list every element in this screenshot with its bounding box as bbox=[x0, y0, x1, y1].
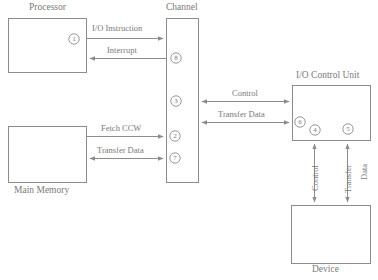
connector-label-fetch-ccw: Fetch CCW bbox=[101, 124, 141, 133]
box-processor bbox=[9, 19, 87, 73]
step-marker-3: 3 bbox=[171, 96, 182, 107]
io-channel-diagram bbox=[0, 0, 378, 280]
box-main-memory bbox=[9, 127, 87, 183]
connector-label-device-control: Control bbox=[311, 165, 320, 191]
box-label-io-control-unit: I/O Control Unit bbox=[296, 71, 359, 81]
connector-label-interrupt: Interrupt bbox=[107, 46, 137, 55]
step-marker-2: 2 bbox=[170, 131, 181, 142]
connector-label-memory-transfer-data: Transfer Data bbox=[97, 146, 144, 155]
connector-label-channel-transfer-data: Transfer Data bbox=[218, 110, 265, 119]
step-marker-1: 1 bbox=[69, 34, 80, 45]
step-marker-6: 6 bbox=[295, 117, 306, 128]
box-label-channel: Channel bbox=[166, 3, 198, 13]
connector-label-control: Control bbox=[232, 89, 258, 98]
step-marker-4: 4 bbox=[310, 125, 321, 136]
connector-label-device-data: Data bbox=[360, 164, 369, 180]
box-label-processor: Processor bbox=[29, 3, 66, 13]
box-io-control-unit bbox=[293, 86, 371, 141]
step-marker-7: 7 bbox=[170, 153, 181, 164]
box-label-main-memory: Main Memory bbox=[14, 186, 69, 196]
box-device bbox=[292, 206, 371, 264]
connector-label-device-transfer: Transfer bbox=[344, 165, 353, 194]
step-marker-8: 8 bbox=[171, 53, 182, 64]
connector-label-io-instruction: I/O Instruction bbox=[92, 24, 142, 33]
box-label-device: Device bbox=[312, 265, 339, 275]
step-marker-5: 5 bbox=[343, 124, 354, 135]
